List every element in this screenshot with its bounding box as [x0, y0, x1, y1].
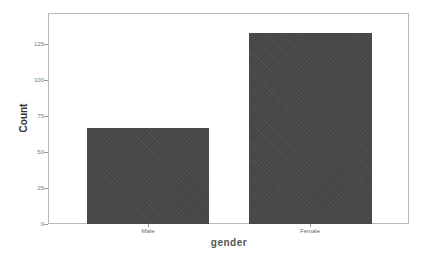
- y-tick-75: [44, 116, 48, 117]
- y-tick-0: [44, 224, 48, 225]
- y-tick-label-100: 100: [34, 77, 44, 83]
- y-tick-100: [44, 80, 48, 81]
- bar-female: [249, 33, 372, 224]
- y-tick-25: [44, 188, 48, 189]
- y-tick-label-75: 75: [37, 113, 44, 119]
- x-tick-male: [148, 224, 149, 227]
- x-tick-label-female: Female: [300, 228, 320, 234]
- y-tick-50: [44, 152, 48, 153]
- y-axis-title: Count: [18, 104, 29, 133]
- x-axis-title: gender: [211, 237, 247, 248]
- bar-male: [87, 128, 209, 224]
- y-tick-125: [44, 44, 48, 45]
- x-tick-female: [310, 224, 311, 227]
- y-tick-label-50: 50: [37, 149, 44, 155]
- y-tick-label-25: 25: [37, 185, 44, 191]
- bar-chart: 0 25 50 75 100 125 Male Female gender Co…: [0, 0, 428, 262]
- y-tick-label-0: 0: [41, 221, 44, 227]
- y-tick-label-125: 125: [34, 41, 44, 47]
- x-tick-label-male: Male: [141, 228, 154, 234]
